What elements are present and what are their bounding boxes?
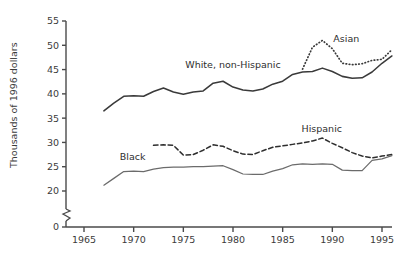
y-tick-label: 50	[47, 40, 59, 51]
y-tick-label: 25	[47, 161, 59, 172]
y-axis-title-text: Thousands of 1996 dollars	[8, 42, 19, 169]
series-label-asian: Asian	[333, 33, 359, 44]
y-tick-label: 35	[47, 113, 59, 124]
series-label-hispanic: Hispanic	[302, 123, 342, 134]
x-tick-label: 1980	[221, 234, 245, 245]
y-tick-label: 40	[47, 88, 59, 99]
y-tick-label: 20	[47, 185, 59, 196]
y-axis-title: Thousands of 1996 dollars	[8, 42, 19, 169]
x-tick-label: 1995	[370, 234, 394, 245]
series-label-black: Black	[120, 151, 146, 162]
x-tick-label: 1990	[320, 234, 344, 245]
chart-container: 0202530354045505519651970197519801985199…	[0, 0, 407, 254]
series-labels: White, non-HispanicAsianHispanicBlack	[120, 33, 360, 162]
x-tick-label: 1975	[171, 234, 195, 245]
series-label-white-non-hispanic: White, non-Hispanic	[185, 59, 280, 70]
x-tick-label: 1970	[122, 234, 146, 245]
series-line-hispanic	[154, 138, 392, 158]
line-chart: 0202530354045505519651970197519801985199…	[0, 0, 407, 254]
y-tick-label: 30	[47, 137, 59, 148]
x-tick-label: 1965	[72, 234, 96, 245]
y-tick-label: 55	[47, 15, 59, 26]
series-line-asian	[303, 40, 392, 69]
y-tick-label: 45	[47, 64, 59, 75]
series-line-black	[104, 156, 392, 186]
x-tick-label: 1985	[271, 234, 295, 245]
y-tick-label: 0	[53, 221, 59, 232]
axes: 0202530354045505519651970197519801985199…	[47, 15, 394, 245]
